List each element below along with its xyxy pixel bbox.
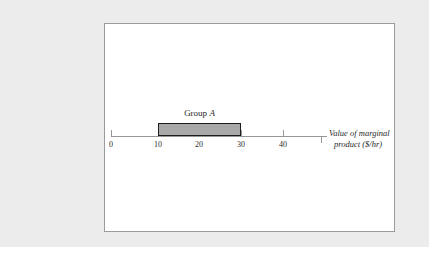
page-background-lower — [0, 247, 429, 263]
bar-label-group-a: Group A — [158, 108, 241, 118]
bar-label-prefix: Group — [184, 108, 209, 118]
x-axis-title-line-2: product ($/hr) — [329, 139, 399, 150]
x-axis-tick-label-20: 20 — [188, 140, 210, 150]
x-axis-tick-label-0: 0 — [100, 140, 122, 150]
x-axis-tick-label-40: 40 — [272, 140, 294, 150]
figure-panel: 0 10 20 30 40 Group A Value of marginal … — [104, 23, 395, 232]
x-axis-tick-label-30: 30 — [230, 140, 252, 150]
x-axis-line — [111, 136, 327, 137]
plot-area: 0 10 20 30 40 Group A Value of marginal … — [105, 24, 396, 233]
x-axis-title-line-1: Value of marginal — [329, 128, 390, 138]
x-axis-tick-label-10: 10 — [147, 140, 169, 150]
bar-group-a — [158, 123, 241, 136]
bar-label-group-letter: A — [209, 108, 215, 118]
x-axis-tick-30 — [241, 130, 242, 136]
figure-screenshot: 0 10 20 30 40 Group A Value of marginal … — [0, 0, 429, 263]
x-axis-end-cap — [321, 136, 322, 143]
x-axis-title: Value of marginal product ($/hr) — [329, 128, 399, 149]
x-axis-tick-0 — [111, 130, 112, 136]
x-axis-tick-40 — [283, 130, 284, 136]
